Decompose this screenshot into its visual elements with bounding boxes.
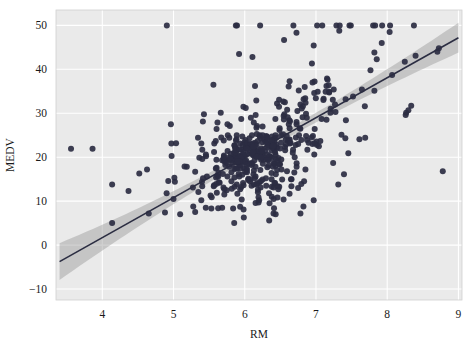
scatter-point — [284, 168, 290, 174]
scatter-point — [251, 119, 257, 125]
scatter-point — [235, 158, 241, 164]
scatter-point — [200, 175, 206, 181]
scatter-point — [196, 155, 202, 161]
scatter-point — [218, 110, 224, 116]
scatter-point — [257, 167, 263, 173]
scatter-point — [270, 164, 276, 170]
scatter-point — [346, 22, 352, 28]
scatter-point — [182, 163, 188, 169]
scatter-point — [190, 203, 196, 209]
scatter-point — [171, 175, 177, 181]
scatter-point — [224, 187, 230, 193]
scatter-point — [234, 181, 240, 187]
scatter-point — [195, 189, 201, 195]
scatter-point — [203, 152, 209, 158]
scatter-point — [162, 210, 168, 216]
scatter-point — [227, 156, 233, 162]
scatter-point — [208, 192, 214, 198]
scatter-point — [250, 144, 256, 150]
scatter-point — [272, 132, 278, 138]
scatter-point — [171, 196, 177, 202]
scatter-point — [164, 22, 170, 28]
scatter-point — [195, 135, 201, 141]
scatter-point — [271, 180, 277, 186]
scatter-point — [217, 180, 223, 186]
scatter-point — [298, 137, 304, 143]
scatter-point — [249, 132, 255, 138]
scatter-point — [260, 132, 266, 138]
scatter-point — [297, 210, 303, 216]
scatter-point — [168, 121, 174, 127]
scatter-point — [301, 178, 307, 184]
scatter-point — [173, 140, 179, 146]
scatter-point — [253, 200, 259, 206]
x-tick-label: 8 — [384, 308, 390, 320]
scatter-point — [338, 132, 344, 138]
scatter-point — [192, 169, 198, 175]
scatter-point — [434, 49, 440, 55]
y-tick-label: −10 — [29, 283, 47, 295]
scatter-point — [311, 90, 317, 96]
scatter-point — [258, 155, 264, 161]
scatter-point — [335, 181, 341, 187]
scatter-point — [249, 54, 255, 60]
scatter-point — [266, 190, 272, 196]
scatter-point — [236, 146, 242, 152]
scatter-point — [321, 96, 327, 102]
scatter-point — [283, 141, 289, 147]
x-tick-label: 9 — [456, 308, 462, 320]
scatter-point — [309, 61, 315, 67]
scatter-point — [267, 200, 273, 206]
scatter-point — [325, 77, 331, 83]
scatter-point — [214, 126, 220, 132]
scatter-point — [215, 205, 221, 211]
scatter-point — [253, 125, 259, 131]
scatter-point — [291, 170, 297, 176]
scatter-point — [330, 97, 336, 103]
scatter-point — [343, 96, 349, 102]
scatter-point — [288, 183, 294, 189]
scatter-point — [258, 178, 264, 184]
scatter-point — [323, 89, 329, 95]
scatter-point — [411, 22, 417, 28]
scatter-point — [224, 121, 230, 127]
scatter-point — [341, 171, 347, 177]
scatter-point — [317, 138, 323, 144]
x-axis-title: RM — [250, 328, 268, 340]
y-tick-label: 20 — [36, 151, 48, 163]
scatter-point — [304, 147, 310, 153]
scatter-point — [387, 22, 393, 28]
scatter-point — [244, 165, 250, 171]
scatter-point — [296, 87, 302, 93]
scatter-point — [290, 147, 296, 153]
scatter-point — [292, 154, 298, 160]
scatter-point — [402, 59, 408, 65]
scatter-point — [440, 168, 446, 174]
scatter-point — [287, 118, 293, 124]
scatter-point — [300, 203, 306, 209]
scatter-point — [190, 185, 196, 191]
scatter-point — [287, 191, 293, 197]
scatter-point — [314, 22, 320, 28]
scatter-point — [259, 148, 265, 154]
scatter-point — [239, 196, 245, 202]
scatter-point — [302, 95, 308, 101]
scatter-point — [243, 105, 249, 111]
scatter-point — [226, 164, 232, 170]
scatter-point — [302, 167, 308, 173]
scatter-point — [276, 184, 282, 190]
scatter-point — [266, 217, 272, 223]
scatter-point — [244, 145, 250, 151]
scatter-point — [362, 135, 368, 141]
scatter-point — [165, 178, 171, 184]
scatter-point — [345, 150, 351, 156]
scatter-point — [264, 157, 270, 163]
scatter-point — [389, 72, 395, 78]
scatter-point — [199, 147, 205, 153]
x-tick-label: 6 — [242, 308, 248, 320]
scatter-point — [281, 37, 287, 43]
scatter-point — [218, 134, 224, 140]
scatter-point — [225, 132, 231, 138]
scatter-point — [362, 103, 368, 109]
scatter-point — [253, 98, 259, 104]
